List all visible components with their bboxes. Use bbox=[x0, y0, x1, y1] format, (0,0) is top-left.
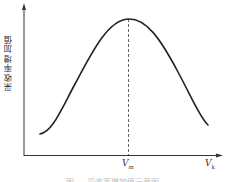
y-axis-arrow-icon bbox=[22, 3, 26, 10]
x-tick-vm: Vm bbox=[122, 158, 134, 170]
recovery-curve bbox=[40, 19, 208, 134]
figure-caption: 图 — 采收率增加值示意图 bbox=[0, 176, 225, 182]
x-tick-vk: Vk bbox=[205, 158, 215, 170]
x-axis-arrow-icon bbox=[216, 154, 223, 158]
figure-canvas bbox=[0, 0, 225, 182]
y-axis-label: 采收率增加值 bbox=[3, 34, 15, 91]
